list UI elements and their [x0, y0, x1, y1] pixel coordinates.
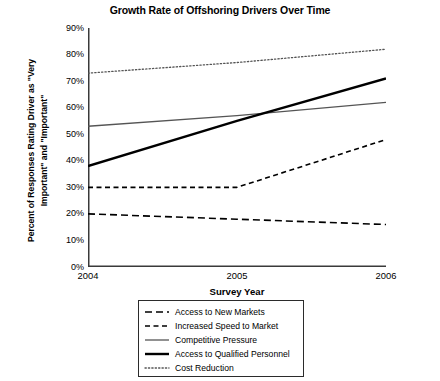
y-axis-tick-label: 60% [50, 103, 84, 112]
x-axis-title: Survey Year [88, 286, 386, 297]
legend-line-swatch [144, 334, 170, 346]
y-axis-tick-label: 80% [50, 50, 84, 59]
legend-item[interactable]: Cost Reduction [144, 361, 304, 375]
legend-items: Access to New MarketsIncreased Speed to … [144, 305, 304, 375]
series-line [88, 140, 386, 188]
legend-item-label: Increased Speed to Market [175, 321, 278, 332]
y-axis-title-line-1: Percent of Responses Rating Driver as "V… [25, 26, 38, 276]
y-axis-tick-label: 70% [50, 77, 84, 86]
y-axis-tick-label: 20% [50, 209, 84, 218]
chart-legend: Access to New MarketsIncreased Speed to … [138, 300, 304, 377]
x-axis-tick-label: 2005 [207, 270, 267, 281]
legend-line-swatch [144, 320, 170, 332]
plot-canvas [88, 28, 386, 267]
plot-area [88, 28, 386, 267]
series-line [88, 102, 386, 126]
y-axis-tick-label: 40% [50, 156, 84, 165]
legend-item-label: Cost Reduction [175, 363, 234, 374]
legend-line-swatch [144, 306, 170, 318]
legend-item[interactable]: Access to New Markets [144, 305, 304, 319]
legend-item-label: Access to Qualified Personnel [175, 349, 290, 360]
legend-item[interactable]: Competitive Pressure [144, 333, 304, 347]
legend-line-swatch [144, 348, 170, 360]
y-axis-tick-labels: 90%80%70%60%50%40%30%20%10%0% [46, 28, 84, 267]
chart-figure: Growth Rate of Offshoring Drivers Over T… [0, 0, 440, 381]
legend-item-label: Access to New Markets [175, 307, 265, 318]
legend-item-label: Competitive Pressure [175, 335, 257, 346]
chart-title: Growth Rate of Offshoring Drivers Over T… [0, 4, 440, 16]
legend-line-swatch [144, 362, 170, 374]
series-line [88, 49, 386, 73]
y-axis-tick-label: 50% [50, 130, 84, 139]
y-axis-tick-label: 10% [50, 236, 84, 245]
series-line [88, 214, 386, 225]
axis-spine [89, 28, 386, 266]
y-axis-tick-label: 30% [50, 183, 84, 192]
legend-item[interactable]: Increased Speed to Market [144, 319, 304, 333]
x-axis-tick-label: 2006 [356, 270, 416, 281]
series-line [88, 78, 386, 166]
y-axis-tick-label: 90% [50, 24, 84, 33]
x-axis-tick-labels: 200420052006 [88, 270, 386, 284]
legend-item[interactable]: Access to Qualified Personnel [144, 347, 304, 361]
x-axis-tick-label: 2004 [58, 270, 118, 281]
